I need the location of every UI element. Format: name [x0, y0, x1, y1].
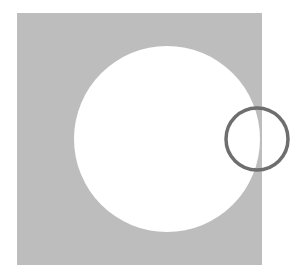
diagram-canvas: [0, 0, 306, 280]
white-circle: [74, 46, 260, 232]
